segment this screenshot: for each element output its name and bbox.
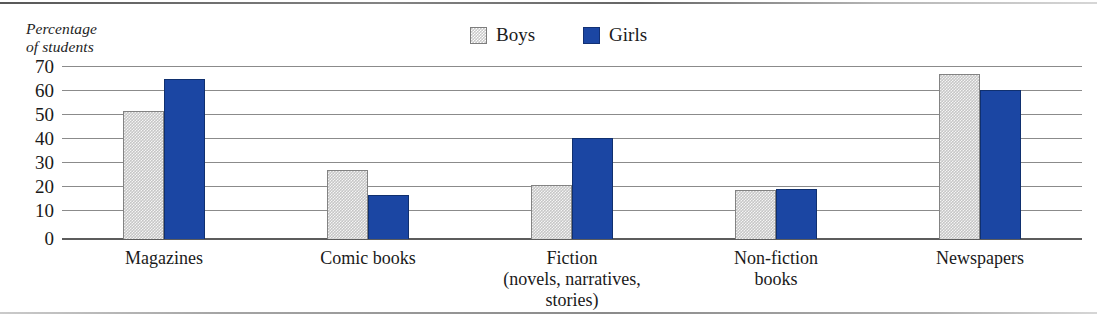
legend-label-boys: Boys <box>496 24 535 46</box>
bar-girls[interactable] <box>980 90 1021 239</box>
bar-girls[interactable] <box>164 79 205 239</box>
bar-group <box>674 66 878 239</box>
boys-swatch-icon <box>470 27 487 44</box>
y-tick-50: 50 <box>14 105 54 124</box>
bar-group <box>878 66 1082 239</box>
category-label: Newspapers <box>878 248 1082 311</box>
y-tick-60: 60 <box>14 81 54 100</box>
y-tick-10: 10 <box>14 201 54 220</box>
y-axis-title: Percentage of students <box>26 20 97 56</box>
y-tick-0: 0 <box>14 229 54 248</box>
bar-pair <box>327 66 409 239</box>
bar-boys[interactable] <box>531 185 572 239</box>
grouped-bar-chart: Percentage of students Boys Girls 70 60 … <box>0 0 1097 314</box>
bar-pair <box>531 66 613 239</box>
bar-boys[interactable] <box>735 190 776 239</box>
bar-group <box>470 66 674 239</box>
bar-pair <box>123 66 205 239</box>
bar-girls[interactable] <box>776 189 817 239</box>
y-tick-40: 40 <box>14 129 54 148</box>
legend-item-girls[interactable]: Girls <box>583 24 647 46</box>
category-label: Fiction (novels, narratives, stories) <box>470 248 674 311</box>
bar-pair <box>735 66 817 239</box>
bar-group <box>266 66 470 239</box>
x-axis-category-labels: MagazinesComic booksFiction (novels, nar… <box>62 248 1082 311</box>
bar-boys[interactable] <box>123 111 164 239</box>
bar-boys[interactable] <box>939 74 980 239</box>
y-tick-30: 30 <box>14 153 54 172</box>
girls-swatch-icon <box>583 27 600 44</box>
category-label: Magazines <box>62 248 266 311</box>
bar-girls[interactable] <box>572 138 613 239</box>
bar-groups <box>62 66 1082 239</box>
plot-area: 70 60 50 40 30 20 10 0 <box>62 66 1082 242</box>
bar-group <box>62 66 266 239</box>
legend-item-boys[interactable]: Boys <box>470 24 535 46</box>
y-tick-70: 70 <box>14 57 54 76</box>
category-label: Comic books <box>266 248 470 311</box>
category-label: Non-fiction books <box>674 248 878 311</box>
bar-boys[interactable] <box>327 170 368 239</box>
chart-legend: Boys Girls <box>470 24 647 46</box>
bar-girls[interactable] <box>368 195 409 239</box>
legend-label-girls: Girls <box>609 24 647 46</box>
bar-pair <box>939 66 1021 239</box>
y-tick-20: 20 <box>14 177 54 196</box>
